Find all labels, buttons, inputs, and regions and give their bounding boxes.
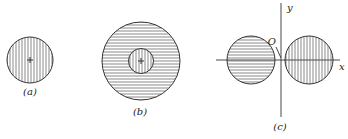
origin-pointer: [276, 47, 281, 58]
panel-c: O y x (c): [216, 2, 345, 132]
panel-b-label: (b): [133, 106, 147, 117]
x-axis-label: x: [339, 61, 345, 72]
figure-canvas: (a) (b) O y x (c): [0, 0, 348, 139]
panel-c-label: (c): [273, 121, 287, 132]
panel-b: (b): [102, 22, 180, 117]
y-axis-label: y: [286, 2, 293, 13]
panel-a: (a): [7, 37, 53, 97]
panel-a-label: (a): [23, 86, 37, 97]
right-circle-c: [285, 36, 333, 84]
origin-label: O: [268, 36, 276, 47]
